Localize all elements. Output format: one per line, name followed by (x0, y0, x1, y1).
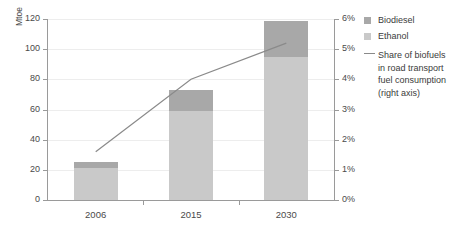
left-tick-mark (43, 200, 47, 201)
legend-share-line-2: in road transport (378, 63, 444, 73)
left-tick-label: 60 (30, 105, 40, 114)
left-tick-mark (43, 110, 47, 111)
x-tick-label: 2030 (276, 209, 297, 220)
right-tick-mark (335, 19, 339, 20)
right-tick-mark (335, 110, 339, 111)
line-swatch-icon (364, 50, 375, 57)
legend-label-ethanol: Ethanol (378, 32, 409, 41)
legend-share-line-4: (right axis) (378, 88, 420, 98)
legend-label-biodiesel: Biodiesel (378, 16, 415, 25)
x-tick-mark (239, 201, 240, 205)
left-axis-title: Mtoe (14, 7, 24, 26)
right-tick-label: 5% (342, 44, 355, 53)
left-tick-label: 0 (35, 195, 40, 204)
right-tick-mark (335, 49, 339, 50)
left-tick-label: 100 (25, 44, 40, 53)
right-tick-mark (335, 140, 339, 141)
right-tick-label: 4% (342, 74, 355, 83)
left-tick-mark (43, 19, 47, 20)
biodiesel-swatch-icon (364, 17, 371, 24)
left-tick-label: 120 (25, 14, 40, 23)
left-tick-label: 40 (30, 135, 40, 144)
left-tick-mark (43, 140, 47, 141)
plot-area: 020406080100120 0%1%2%3%4%5%6% 200620152… (48, 19, 334, 200)
x-tick-label: 2015 (180, 209, 201, 220)
right-tick-mark (335, 79, 339, 80)
legend-share-line-3: fuel consumption (378, 75, 446, 85)
left-tick-mark (43, 79, 47, 80)
legend-label-share: Share of biofuels in road transport fuel… (378, 49, 446, 100)
legend-item-share-line: Share of biofuels in road transport fuel… (364, 49, 458, 100)
right-tick-mark (335, 170, 339, 171)
right-tick-label: 6% (342, 14, 355, 23)
left-tick-label: 80 (30, 74, 40, 83)
right-tick-label: 1% (342, 165, 355, 174)
left-tick-mark (43, 49, 47, 50)
x-tick-mark (143, 201, 144, 205)
share-line (48, 19, 334, 200)
legend-item-biodiesel: Biodiesel (364, 16, 458, 25)
x-axis-line (47, 200, 335, 201)
x-tick-label: 2006 (85, 209, 106, 220)
right-tick-label: 2% (342, 135, 355, 144)
right-tick-label: 3% (342, 105, 355, 114)
right-tick-label: 0% (342, 195, 355, 204)
ethanol-swatch-icon (364, 33, 371, 40)
left-tick-mark (43, 170, 47, 171)
legend-share-line-1: Share of biofuels (378, 50, 446, 60)
legend-item-ethanol: Ethanol (364, 32, 458, 41)
biofuels-chart: Mtoe 020406080100120 0%1%2%3%4%5%6% 2006… (0, 0, 460, 233)
legend: Biodiesel Ethanol Share of biofuels in r… (364, 16, 458, 107)
right-tick-mark (335, 200, 339, 201)
left-tick-label: 20 (30, 165, 40, 174)
